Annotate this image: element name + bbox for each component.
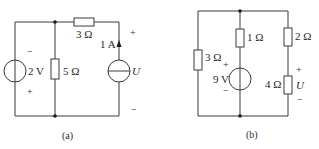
polarity-plus: + — [130, 27, 136, 38]
polarity-plus: + — [223, 59, 229, 70]
resistor-icon — [284, 28, 292, 46]
figure-caption: (a) — [62, 130, 73, 142]
polarity-minus: − — [131, 104, 137, 115]
figure-caption: (b) — [246, 129, 258, 141]
polarity-plus: + — [27, 86, 33, 97]
resistor-label: 4 Ω — [265, 78, 281, 90]
output-label: U — [296, 79, 305, 91]
output-label: U — [132, 65, 141, 77]
resistor-label: 2 Ω — [295, 30, 311, 42]
voltage-source-icon — [229, 68, 251, 90]
junction-node — [238, 9, 242, 13]
resistor-label: 3 Ω — [205, 51, 221, 63]
current-label: 1 A — [100, 38, 116, 50]
resistor-icon — [236, 29, 244, 47]
resistor-icon — [284, 76, 292, 94]
wires-b — [198, 11, 288, 116]
polarity-plus: + — [296, 64, 302, 75]
junction-node — [238, 114, 242, 118]
polarity-minus: − — [27, 46, 33, 57]
resistor-label: 5 Ω — [63, 65, 79, 77]
resistor-icon — [51, 59, 59, 79]
current-source-icon — [108, 60, 130, 82]
resistor-icon — [194, 50, 202, 70]
resistor-label: 3 Ω — [76, 28, 92, 40]
resistor-label: 1 Ω — [247, 31, 263, 43]
junction-node — [53, 114, 57, 118]
circuit-a: 2 V − + 5 Ω 3 Ω 1 A U + − (a) — [4, 18, 141, 142]
circuit-b: 3 Ω 1 Ω 9 V + − 2 Ω 4 Ω U + − (b) — [194, 9, 311, 141]
polarity-minus: − — [223, 85, 229, 96]
resistor-icon — [74, 18, 94, 26]
arrow-up-icon — [117, 40, 122, 47]
voltage-source-icon — [4, 60, 26, 82]
voltage-source-label: 2 V — [28, 65, 44, 77]
polarity-minus: − — [297, 94, 303, 105]
voltage-source-label: 9 V — [213, 73, 229, 85]
junction-node — [53, 20, 57, 24]
